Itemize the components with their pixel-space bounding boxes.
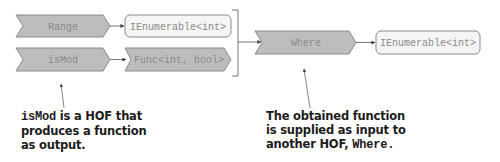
where-output-label: IEnumerable<int> — [380, 38, 476, 49]
where-node: Where — [255, 31, 356, 54]
where-label: Where — [291, 38, 321, 49]
is-mod-label: isMod — [48, 55, 78, 66]
where-output-node: IEnumerable<int> — [376, 31, 480, 54]
annotation-pointer-is-mod — [61, 84, 64, 108]
annotation-where-code: Where. — [352, 138, 394, 152]
annotation-is-mod-line3: as output. — [21, 138, 171, 152]
range-label: Range — [48, 22, 78, 33]
is-mod-output-node: Func<int, bool> — [125, 48, 231, 71]
range-output-node: IEnumerable<int> — [125, 15, 231, 37]
annotation-is-mod-line2: produces a function — [21, 124, 171, 138]
range-node: Range — [16, 15, 110, 37]
annotation-is-mod: isMod is a HOF that produces a function … — [21, 109, 171, 152]
is-mod-node: isMod — [16, 48, 110, 71]
annotation-where-line1: The obtained function — [266, 109, 436, 123]
annotation-is-mod-line1-rest: is a HOF that — [56, 109, 142, 123]
annotation-is-mod-code: isMod — [21, 110, 56, 124]
annotation-pointer-where — [304, 69, 310, 108]
grouping-bracket — [232, 10, 238, 76]
annotation-where: The obtained function is supplied as inp… — [266, 109, 436, 152]
annotation-where-line2: is supplied as input to — [266, 123, 436, 137]
range-output-label: IEnumerable<int> — [130, 22, 226, 33]
annotation-where-line3-prefix: another HOF, — [266, 137, 352, 151]
is-mod-output-label: Func<int, bool> — [134, 55, 224, 66]
annotation-is-mod-line1: isMod is a HOF that — [21, 109, 171, 124]
annotation-where-line3: another HOF, Where. — [266, 137, 436, 152]
